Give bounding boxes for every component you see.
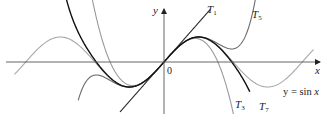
curve-t5	[78, 0, 255, 100]
y-axis-label: y	[152, 4, 158, 16]
x-axis-label: x	[314, 64, 320, 76]
origin-label: 0	[167, 65, 172, 76]
label-sin: y = sin x	[283, 86, 319, 97]
label-t1: T1	[207, 3, 217, 17]
label-t5: T5	[252, 8, 262, 22]
label-t7: T7	[259, 100, 269, 114]
curve-t3	[92, 0, 235, 114]
taylor-polynomials-sine-chart: y x 0 T1 T5 T3 T7 y = sin x	[0, 0, 329, 114]
label-t3: T3	[235, 98, 245, 112]
